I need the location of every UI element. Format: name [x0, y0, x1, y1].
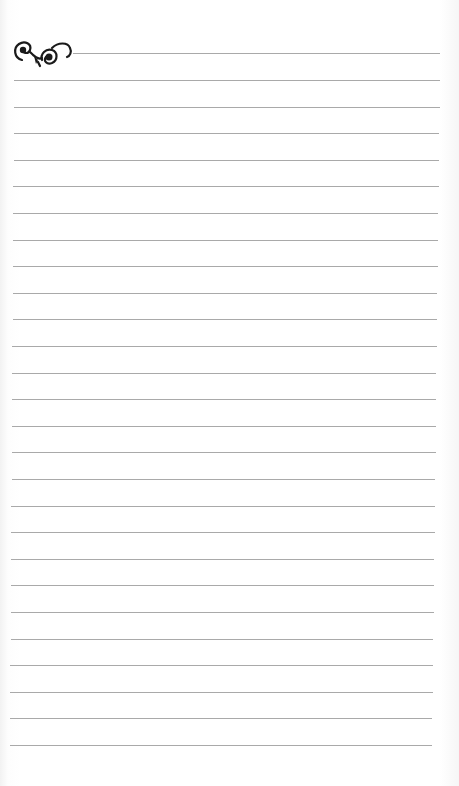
- rule-line: [12, 399, 436, 400]
- rule-line: [13, 240, 438, 241]
- rule-line: [11, 532, 434, 533]
- rule-line: [11, 506, 434, 507]
- rule-line: [12, 479, 436, 480]
- rule-line: [10, 745, 432, 746]
- flourish-ornament-icon: [12, 38, 74, 68]
- rule-line: [12, 452, 436, 453]
- rule-line: [11, 612, 434, 613]
- rule-line: [14, 107, 440, 108]
- rule-line: [13, 186, 438, 187]
- rule-line: [13, 319, 438, 320]
- header-rule-line: [73, 53, 440, 54]
- rule-line: [11, 585, 434, 586]
- rule-line: [12, 426, 436, 427]
- rule-line: [13, 213, 438, 214]
- rule-line: [10, 665, 432, 666]
- rule-line: [10, 692, 432, 693]
- rule-line: [11, 639, 434, 640]
- rule-line: [14, 160, 440, 161]
- notepaper-page: [0, 0, 459, 786]
- rule-line: [14, 133, 440, 134]
- rule-line: [13, 266, 438, 267]
- rule-line: [12, 373, 436, 374]
- rule-line: [13, 293, 438, 294]
- rule-line: [10, 718, 432, 719]
- rule-line: [11, 559, 434, 560]
- rule-line: [12, 346, 436, 347]
- rule-line: [14, 80, 440, 81]
